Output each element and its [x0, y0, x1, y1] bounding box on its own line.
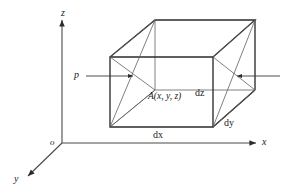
pressure-label: p [74, 70, 79, 80]
coordinate-axes [28, 20, 256, 176]
z-axis-label: z [61, 8, 65, 18]
right-face-diagonal-b [213, 20, 255, 127]
dz-label: dz [195, 88, 204, 98]
dy-label: dy [224, 118, 234, 128]
dx-label: dx [153, 130, 163, 140]
cuboid-outline [110, 20, 255, 127]
left-face-diagonal-b [110, 20, 155, 127]
point-a-label: A(x, y, z) [148, 92, 181, 102]
right-face-diagonals [213, 20, 255, 127]
x-axis-label: x [262, 137, 266, 147]
y-axis-label: y [14, 174, 18, 184]
left-face-diagonal-d [110, 20, 155, 57]
top-face [110, 20, 255, 57]
diagram-canvas [0, 0, 290, 191]
cuboid-back-edges [110, 20, 255, 127]
y-axis [28, 143, 62, 176]
figure-container: z x y o p A(x, y, z) dz dx dy [0, 0, 290, 191]
origin-label: o [50, 138, 55, 147]
right-face-diagonal-c [213, 90, 255, 127]
left-face-diagonals [110, 20, 155, 127]
right-face-diagonal-d [213, 20, 255, 57]
